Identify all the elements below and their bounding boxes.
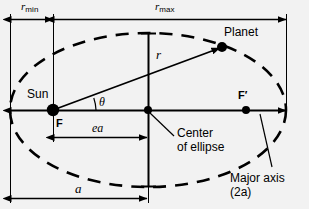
label-r-min: rmin	[21, 1, 38, 14]
label-major-axis-line2: (2a)	[230, 186, 251, 199]
label-major-axis-line1: Major axis	[230, 172, 285, 185]
label-center-of-ellipse-line2: of ellipse	[177, 141, 224, 154]
label-a: a	[75, 182, 82, 196]
theta-angle-arc	[94, 98, 96, 110]
focus-prime-dot	[242, 106, 250, 114]
label-focus-near: F	[56, 118, 63, 130]
label-planet: Planet	[224, 26, 258, 39]
leader-line-center	[150, 113, 174, 136]
label-sun: Sun	[27, 88, 48, 101]
planet-dot	[217, 42, 227, 52]
center-dot	[144, 106, 152, 114]
leader-line-major-axis	[260, 114, 272, 167]
radius-vector-line	[53, 48, 220, 110]
orbital-ellipse-diagram: rmin rmax Planet Sun F F′ r θ Center of …	[0, 0, 309, 209]
sun-focus-dot	[47, 104, 59, 116]
label-ea: ea	[92, 122, 103, 135]
label-r-min-subscript: min	[25, 5, 38, 14]
label-focus-far: F′	[238, 90, 247, 102]
label-center-of-ellipse-line1: Center	[177, 127, 213, 140]
label-r-max: rmax	[155, 1, 175, 14]
label-theta: θ	[99, 96, 105, 109]
label-r-max-subscript: max	[159, 5, 174, 14]
label-radius: r	[156, 48, 161, 62]
